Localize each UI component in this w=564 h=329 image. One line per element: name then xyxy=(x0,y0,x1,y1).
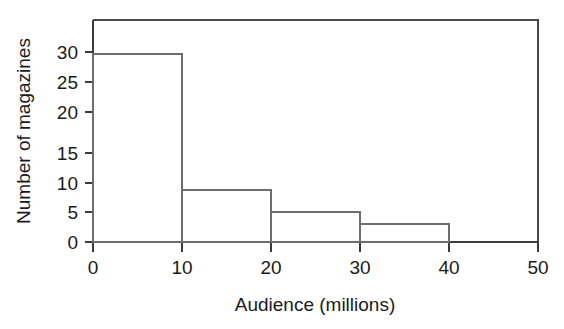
histogram-bar-20-30 xyxy=(271,212,360,242)
y-axis-title: Number of magazines xyxy=(13,38,34,224)
histogram-bar-0-10 xyxy=(93,54,182,242)
x-axis-title: Audience (millions) xyxy=(235,294,396,315)
x-tick-label-30: 30 xyxy=(349,257,370,278)
y-tick-label-15: 15 xyxy=(57,143,78,164)
histogram-figure: 0 5 10 15 20 25 30 0 10 20 30 40 50 Numb… xyxy=(0,0,564,329)
x-tick-marks xyxy=(93,242,538,252)
histogram-bars xyxy=(93,54,449,242)
y-tick-label-10: 10 xyxy=(57,173,78,194)
x-tick-label-40: 40 xyxy=(438,257,459,278)
y-tick-label-0: 0 xyxy=(67,232,78,253)
y-tick-label-30: 30 xyxy=(57,42,78,63)
chart-canvas: 0 5 10 15 20 25 30 0 10 20 30 40 50 Numb… xyxy=(0,0,564,329)
x-tick-label-50: 50 xyxy=(527,257,548,278)
histogram-bar-10-20 xyxy=(182,190,271,242)
histogram-bar-30-40 xyxy=(360,224,449,242)
y-tick-label-25: 25 xyxy=(57,72,78,93)
x-tick-label-20: 20 xyxy=(260,257,281,278)
x-tick-label-0: 0 xyxy=(88,257,99,278)
y-tick-label-5: 5 xyxy=(67,202,78,223)
y-tick-label-20: 20 xyxy=(57,102,78,123)
y-tick-marks xyxy=(85,52,93,242)
x-tick-label-10: 10 xyxy=(171,257,192,278)
